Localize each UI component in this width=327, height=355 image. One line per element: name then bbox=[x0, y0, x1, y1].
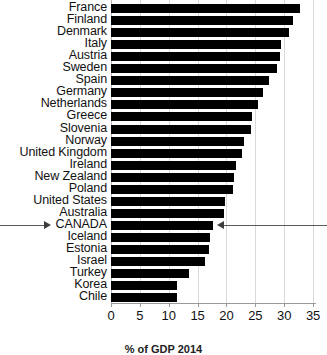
tick-label-15: 15 bbox=[185, 308, 211, 323]
bar-iceland bbox=[111, 233, 210, 242]
bar-chile bbox=[111, 293, 177, 302]
bar-sweden bbox=[111, 64, 277, 73]
bar-austria bbox=[111, 52, 280, 61]
bar-turkey bbox=[111, 269, 189, 278]
bar-poland bbox=[111, 185, 233, 194]
bar-new-zealand bbox=[111, 173, 234, 182]
bar-netherlands bbox=[111, 100, 258, 109]
bar-greece bbox=[111, 112, 252, 121]
tick-label-30: 30 bbox=[271, 308, 297, 323]
tick-label-10: 10 bbox=[156, 308, 182, 323]
bar-israel bbox=[111, 257, 205, 266]
tick-label-0: 0 bbox=[98, 308, 124, 323]
tick-label-20: 20 bbox=[213, 308, 239, 323]
arrow-head-left-icon bbox=[217, 221, 224, 229]
tick-label-35: 35 bbox=[300, 308, 326, 323]
bar-united-states bbox=[111, 197, 225, 206]
bar-australia bbox=[111, 209, 224, 218]
canada-right-arrow bbox=[0, 219, 327, 232]
tick-label-25: 25 bbox=[242, 308, 268, 323]
bar-ireland bbox=[111, 161, 236, 170]
bar-estonia bbox=[111, 245, 209, 254]
bar-germany bbox=[111, 88, 263, 97]
x-axis-label: % of GDP 2014 bbox=[0, 343, 327, 355]
bar-finland bbox=[111, 16, 293, 25]
bar-italy bbox=[111, 40, 281, 49]
bar-korea bbox=[111, 281, 177, 290]
tick-label-5: 5 bbox=[127, 308, 153, 323]
bar-france bbox=[111, 4, 300, 13]
arrow-shaft bbox=[224, 225, 327, 226]
bar-slovenia bbox=[111, 125, 251, 134]
bar-row: Chile bbox=[0, 291, 327, 304]
bar-norway bbox=[111, 137, 244, 146]
bar-spain bbox=[111, 76, 269, 85]
bar-denmark bbox=[111, 28, 289, 37]
bar-chart: 05101520253035 FranceFinlandDenmarkItaly… bbox=[0, 0, 327, 355]
category-label-chile: Chile bbox=[0, 290, 107, 303]
bar-united-kingdom bbox=[111, 149, 242, 158]
